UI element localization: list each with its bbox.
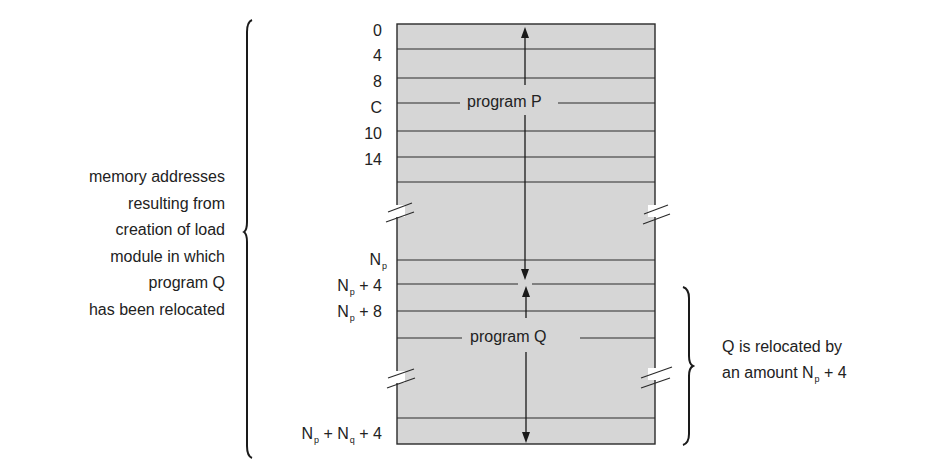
address-text: N (337, 303, 349, 320)
annotation-line: has been relocated (40, 297, 225, 324)
address-text: 10 (364, 125, 382, 142)
right-annotation: Q is relocated by an amount Np + 4 (722, 334, 847, 388)
address-text: N (301, 425, 313, 442)
annotation-text: an amount N (722, 364, 814, 381)
annotation-line: program Q (40, 270, 225, 297)
address-text: N (369, 251, 381, 268)
right-brace (683, 287, 693, 445)
annotation-line: memory addresses (40, 164, 225, 191)
annotation-text: + 4 (820, 364, 847, 381)
address-np-plus-8: Np + 8 (222, 302, 382, 324)
annotation-subscript: p (815, 374, 820, 384)
address-subscript-2: q (350, 435, 355, 445)
address-text: 4 (373, 47, 382, 64)
annotation-line: creation of load (40, 217, 225, 244)
address-subscript: p (314, 435, 319, 445)
address-subscript: p (350, 313, 355, 323)
program-q-label: program Q (466, 328, 550, 346)
address-0: 0 (222, 21, 382, 40)
address-10: 10 (222, 124, 382, 143)
address-tail: + 4 (355, 277, 382, 294)
address-text: 0 (373, 22, 382, 39)
address-subscript: p (350, 287, 355, 297)
address-text: C (370, 99, 382, 116)
address-np-plus-nq-plus-4: Np + Nq + 4 (222, 424, 382, 446)
annotation-line: module in which (40, 244, 225, 271)
address-tail: + 8 (355, 303, 382, 320)
address-text: 14 (364, 151, 382, 168)
memory-relocation-diagram: program P program Q 0 4 8 C 10 14 Np Np … (0, 0, 926, 472)
address-text: 8 (373, 73, 382, 90)
address-tail: + N (319, 425, 349, 442)
annotation-line: resulting from (40, 191, 225, 218)
address-subscript: p (382, 261, 387, 271)
address-np: Np (227, 250, 387, 272)
address-8: 8 (222, 72, 382, 91)
program-p-label: program P (463, 93, 546, 111)
address-text: N (337, 277, 349, 294)
address-4: 4 (222, 46, 382, 65)
annotation-line: Q is relocated by (722, 334, 847, 360)
address-14: 14 (222, 150, 382, 169)
address-np-plus-4: Np + 4 (222, 276, 382, 298)
left-annotation: memory addresses resulting from creation… (40, 164, 225, 323)
address-c: C (222, 98, 382, 117)
address-tail-2: + 4 (355, 425, 382, 442)
annotation-line: an amount Np + 4 (722, 360, 847, 388)
